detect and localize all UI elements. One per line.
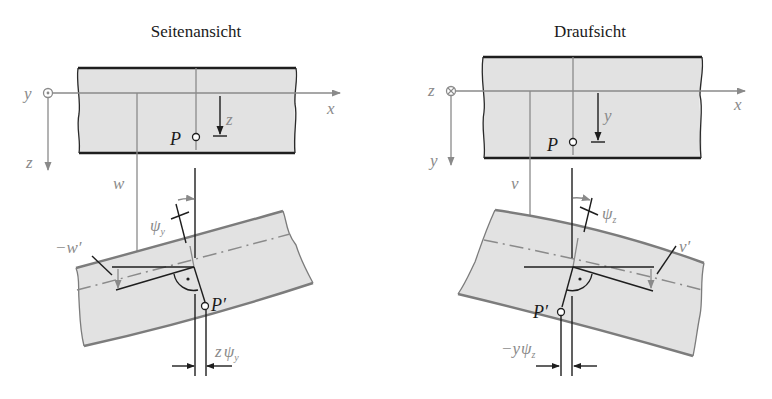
right-panel-title: Draufsicht	[554, 22, 626, 41]
left-panel-title: Seitenansicht	[151, 22, 242, 41]
left-panel-side-view: Seitenansicht y x z P z w	[22, 22, 340, 376]
y-axis-label: y	[22, 84, 32, 103]
local-z-label: z	[225, 110, 233, 129]
local-y-label: y	[602, 106, 612, 125]
right-panel-top-view: Draufsicht z x y P y v	[427, 22, 745, 376]
slope-v-prime-label: v′	[679, 237, 691, 256]
z-axis-label: z	[427, 81, 435, 100]
deformed-beam-right	[458, 210, 704, 356]
point-P-marker	[193, 134, 200, 141]
x-axis-label: x	[733, 95, 742, 114]
point-P-prime-label: P′	[532, 302, 549, 322]
beam-kinematics-figure: Seitenansicht y x z P z w	[0, 0, 772, 399]
rotation-psi-z-label: ψz	[602, 204, 617, 225]
point-P-prime-label: P′	[210, 295, 227, 315]
offset-minus-y-psi-z-label: −yψz	[501, 339, 536, 360]
z-axis-label: z	[25, 153, 33, 172]
x-axis-label: x	[326, 99, 335, 118]
displacement-v-label: v	[511, 174, 519, 193]
point-P-prime-marker	[202, 303, 209, 310]
y-axis-label: y	[428, 151, 438, 170]
undeformed-beam-right	[482, 57, 702, 158]
slope-minus-w-prime-label: −w′	[55, 238, 82, 257]
point-P-prime-marker	[558, 309, 565, 316]
point-P-label: P	[169, 129, 181, 149]
offset-z-psi-y-label: zψy	[214, 342, 239, 363]
point-P-marker	[570, 139, 577, 146]
displacement-w-label: w	[113, 174, 125, 193]
rotation-psi-y-label: ψy	[150, 216, 166, 237]
undeformed-beam-left	[78, 68, 297, 153]
point-P-label: P	[546, 135, 558, 155]
